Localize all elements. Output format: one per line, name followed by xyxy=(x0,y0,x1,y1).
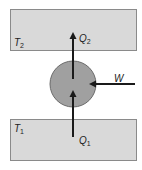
t2-label: T2 xyxy=(14,38,24,49)
heat-pump-diagram xyxy=(0,0,142,170)
q1-label: Q1 xyxy=(79,136,91,147)
t1-label: T1 xyxy=(14,124,24,135)
q2-label: Q2 xyxy=(79,34,91,45)
work-arrow xyxy=(89,81,135,88)
w-label: W xyxy=(114,74,123,84)
